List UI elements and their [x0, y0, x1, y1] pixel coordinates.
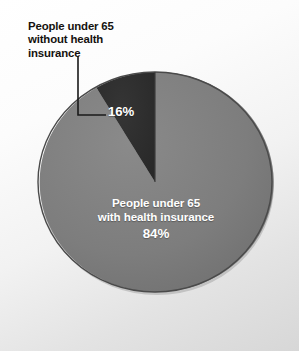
- slice-value-uninsured: 16%: [108, 105, 162, 119]
- callout-label-line-2: without health: [28, 33, 168, 46]
- callout-label-line-1: People under 65: [28, 20, 168, 33]
- slice-label-insured: People under 65 with health insurance 84…: [66, 196, 246, 241]
- slice-value-insured: 84%: [66, 227, 246, 241]
- callout-leader-line: [74, 56, 110, 120]
- pie-chart-figure: People under 65 without health insurance…: [0, 0, 299, 351]
- slice-label-insured-line-1: People under 65: [66, 196, 246, 210]
- callout-label-uninsured: People under 65 without health insurance: [28, 20, 168, 60]
- callout-label-line-3: insurance: [28, 47, 168, 60]
- slice-label-insured-line-2: with health insurance: [66, 210, 246, 224]
- leader-polyline: [78, 56, 106, 115]
